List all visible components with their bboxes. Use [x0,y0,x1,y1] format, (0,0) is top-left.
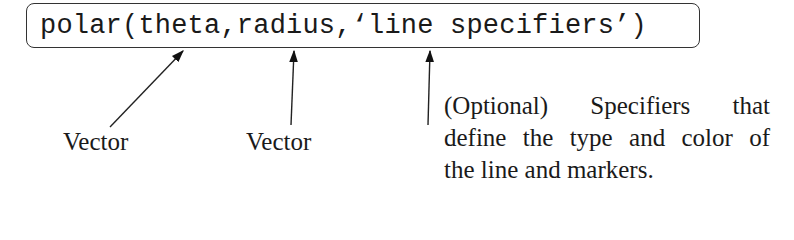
arrow-to-line-specifiers [428,51,430,125]
description-line-1: (Optional) Specifiers that [444,90,770,122]
description-line-3: the line and markers. [444,154,770,186]
radius-label: Vector [246,128,311,156]
theta-label: Vector [63,128,128,156]
arrow-to-theta [110,51,183,127]
line-specifiers-description: (Optional) Specifiers that define the ty… [444,90,770,186]
description-line-2: define the type and color of [444,122,770,154]
arrow-to-radius [291,51,294,125]
